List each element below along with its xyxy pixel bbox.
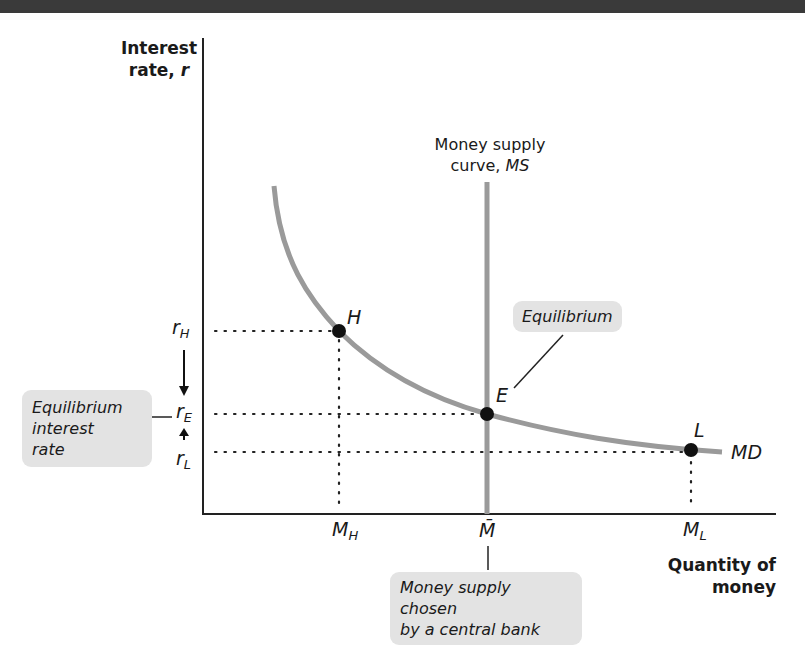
- ms-chosen-line1: Money supply chosen: [400, 577, 572, 619]
- point-H: [332, 324, 346, 338]
- point-E-label: E: [496, 384, 508, 406]
- y-axis-label-line1: Interest: [106, 37, 212, 59]
- tick-rH-sub: H: [180, 326, 190, 341]
- tick-rE-sub: E: [184, 410, 192, 425]
- y-axis-label-text: rate,: [129, 60, 181, 80]
- tick-Mbar: M̄: [479, 519, 495, 541]
- tick-MH-base: M: [332, 518, 348, 540]
- point-E: [480, 407, 494, 421]
- ms-label-line2: curve, MS: [400, 155, 580, 176]
- tick-rL-sub: L: [184, 457, 191, 472]
- y-axis-label: Interest rate, r: [106, 37, 212, 81]
- equilibrium-rate-callout: Equilibrium interest rate: [22, 390, 152, 467]
- x-axis-label: Quantity of money: [648, 554, 776, 598]
- tick-rL: rL: [176, 447, 191, 472]
- ms-chosen-callout: Money supply chosen by a central bank: [390, 572, 582, 645]
- tick-MH: MH: [332, 518, 358, 543]
- tick-rH: rH: [172, 316, 190, 341]
- point-H-label: H: [347, 306, 361, 328]
- tick-ML-base: M: [683, 518, 699, 540]
- tick-ML-sub: L: [699, 528, 706, 543]
- tick-rE-base: r: [176, 400, 184, 422]
- x-axis-label-line1: Quantity of: [648, 554, 776, 576]
- eq-rate-line2: interest: [32, 418, 142, 439]
- eq-rate-line3: rate: [32, 439, 142, 460]
- ms-label-text: curve,: [451, 156, 506, 175]
- tick-rE: rE: [176, 400, 192, 425]
- ms-label-line1: Money supply: [400, 134, 580, 155]
- tick-rL-base: r: [176, 447, 184, 469]
- ms-curve-label: Money supply curve, MS: [400, 134, 580, 176]
- ms-chosen-line2: by a central bank: [400, 619, 572, 640]
- eq-rate-line1: Equilibrium: [32, 397, 142, 418]
- point-L-label: L: [694, 419, 705, 441]
- y-axis-label-line2: rate, r: [106, 59, 212, 81]
- md-curve-label: MD: [731, 441, 762, 463]
- up-arrowhead-icon: [179, 428, 189, 436]
- ms-symbol: MS: [506, 156, 530, 175]
- x-axis-label-line2: money: [648, 576, 776, 598]
- equilibrium-callout: Equilibrium: [513, 301, 622, 332]
- tick-ML: ML: [683, 518, 707, 543]
- y-axis-symbol: r: [181, 60, 189, 80]
- point-L: [684, 443, 698, 457]
- equilibrium-leader: [514, 335, 563, 388]
- tick-rH-base: r: [172, 316, 180, 338]
- tick-MH-sub: H: [348, 528, 358, 543]
- money-demand-curve: [274, 186, 722, 452]
- down-arrowhead-icon: [179, 386, 189, 396]
